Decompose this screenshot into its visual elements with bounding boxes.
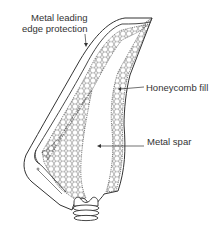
leading-edge-label: Metal leading edge protection bbox=[22, 12, 88, 34]
arrowhead-leading-edge bbox=[84, 43, 88, 47]
root-collar-3 bbox=[74, 215, 98, 220]
blade-illustration bbox=[0, 0, 224, 231]
leading-edge-label-line1: Metal leading bbox=[22, 12, 88, 23]
honeycomb-label: Honeycomb fill bbox=[146, 82, 208, 93]
spar-label: Metal spar bbox=[147, 136, 191, 147]
blade-diagram: Metal leading edge protection Honeycomb … bbox=[0, 0, 224, 231]
leading-edge-label-line2: edge protection bbox=[22, 23, 88, 34]
